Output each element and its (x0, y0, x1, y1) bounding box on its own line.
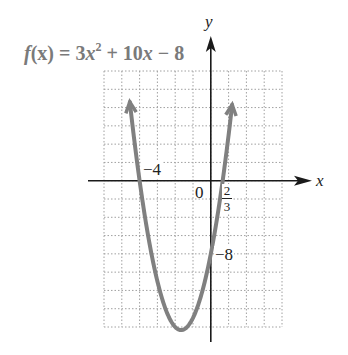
x-intercept-left-label: −4 (142, 161, 162, 178)
parabola-chart: f(x) = 3x2 + 10x − 8 y x 0 −4 2 3 −8 (0, 0, 348, 355)
function-curve (126, 102, 236, 330)
y-axis-label: y (205, 13, 213, 30)
fraction-numerator: 2 (224, 183, 231, 198)
x-intercept-right-label: 2 3 (222, 184, 232, 213)
fraction-denominator: 3 (224, 199, 231, 214)
origin-label: 0 (195, 184, 204, 201)
function-title: f(x) = 3x2 + 10x − 8 (24, 40, 184, 65)
y-intercept-label: −8 (214, 246, 234, 263)
x-axis-label: x (316, 172, 324, 189)
